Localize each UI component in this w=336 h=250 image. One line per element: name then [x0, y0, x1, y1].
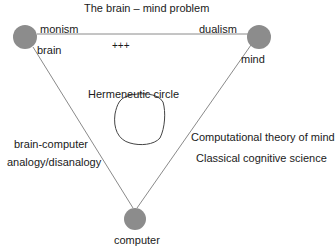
label-classical-cognitive: Classical cognitive science	[196, 152, 327, 165]
label-computer: computer	[114, 234, 160, 247]
diagram-title: The brain – mind problem	[84, 2, 209, 15]
label-dualism: dualism	[199, 23, 237, 36]
label-monism: monism	[40, 23, 79, 36]
label-computational-theory: Computational theory of mind	[191, 131, 335, 144]
edge-brain-computer	[33, 47, 133, 208]
label-analogy: analogy/disanalogy	[7, 156, 101, 169]
node-computer	[124, 208, 146, 230]
label-brain: brain	[37, 44, 61, 57]
label-hermeneutic-circle: Hermeneutic circle	[88, 88, 179, 101]
diagram-canvas: The brain – mind problem monism dualism …	[0, 0, 336, 250]
label-brain-computer: brain-computer	[14, 138, 88, 151]
edge-mind-computer	[137, 45, 251, 208]
node-brain	[13, 25, 37, 49]
node-mind	[247, 25, 271, 49]
hermeneutic-circle-shape	[115, 94, 165, 145]
label-plus: +++	[112, 39, 130, 52]
diagram-graphics	[0, 0, 336, 250]
label-mind: mind	[241, 53, 265, 66]
